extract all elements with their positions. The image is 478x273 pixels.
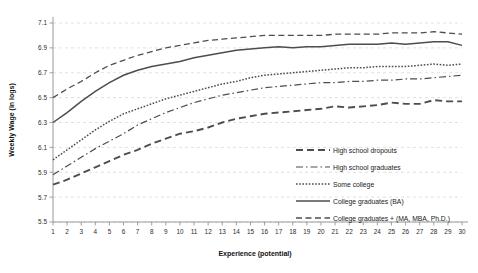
x-tick-label: 28 bbox=[430, 228, 438, 235]
x-tick-label: 22 bbox=[346, 228, 354, 235]
wage-experience-line-chart: 5.55.75.96.16.36.56.76.97.1 123456789101… bbox=[0, 0, 478, 273]
x-tick-label: 9 bbox=[164, 228, 168, 235]
y-tick-label: 6.9 bbox=[38, 44, 47, 51]
x-tick-label: 7 bbox=[136, 228, 140, 235]
x-tick-label: 8 bbox=[150, 228, 154, 235]
y-tick-label: 5.7 bbox=[38, 194, 47, 201]
y-tick-label: 5.9 bbox=[38, 169, 47, 176]
y-tick-label: 5.5 bbox=[38, 218, 47, 225]
y-tick-label: 6.1 bbox=[38, 144, 47, 151]
y-tick-label: 7.1 bbox=[38, 19, 47, 26]
x-tick-label: 25 bbox=[388, 228, 396, 235]
x-tick-label: 13 bbox=[219, 228, 227, 235]
x-tick-label: 27 bbox=[416, 228, 424, 235]
x-tick-label: 21 bbox=[332, 228, 340, 235]
x-tick-label: 19 bbox=[303, 228, 311, 235]
x-axis-title: Experience (potential) bbox=[218, 250, 291, 258]
x-tick-label: 10 bbox=[176, 228, 184, 235]
x-tick-label: 26 bbox=[402, 228, 410, 235]
x-tick-label: 1 bbox=[51, 228, 55, 235]
x-tick-label: 11 bbox=[191, 228, 198, 235]
y-tick-label: 6.7 bbox=[38, 69, 47, 76]
chart-container: 5.55.75.96.16.36.56.76.97.1 123456789101… bbox=[0, 0, 478, 273]
x-tick-label: 30 bbox=[458, 228, 466, 235]
x-tick-label: 14 bbox=[233, 228, 241, 235]
legend-label-3: College graduates (BA) bbox=[333, 198, 404, 206]
legend-label-0: High school dropouts bbox=[333, 147, 397, 155]
y-tick-label: 6.3 bbox=[38, 119, 47, 126]
x-tick-label: 4 bbox=[94, 228, 98, 235]
x-tick-label: 16 bbox=[261, 228, 269, 235]
legend-label-1: High school graduates bbox=[333, 164, 401, 172]
x-tick-label: 29 bbox=[444, 228, 452, 235]
x-tick-label: 6 bbox=[122, 228, 126, 235]
legend-label-4: College graduates + (MA, MBA, Ph.D.) bbox=[333, 215, 450, 223]
x-tick-label: 17 bbox=[275, 228, 283, 235]
x-tick-label: 3 bbox=[79, 228, 83, 235]
x-tick-label: 2 bbox=[65, 228, 69, 235]
x-tick-label: 12 bbox=[205, 228, 213, 235]
x-tick-label: 15 bbox=[247, 228, 255, 235]
y-tick-label: 6.5 bbox=[38, 94, 47, 101]
x-tick-label: 5 bbox=[108, 228, 112, 235]
x-tick-label: 18 bbox=[289, 228, 297, 235]
legend-label-2: Some college bbox=[333, 181, 374, 189]
y-axis-title: Weekly Wage (in logs) bbox=[8, 83, 16, 157]
x-tick-label: 20 bbox=[317, 228, 325, 235]
x-tick-label: 23 bbox=[360, 228, 368, 235]
x-tick-label: 24 bbox=[374, 228, 382, 235]
